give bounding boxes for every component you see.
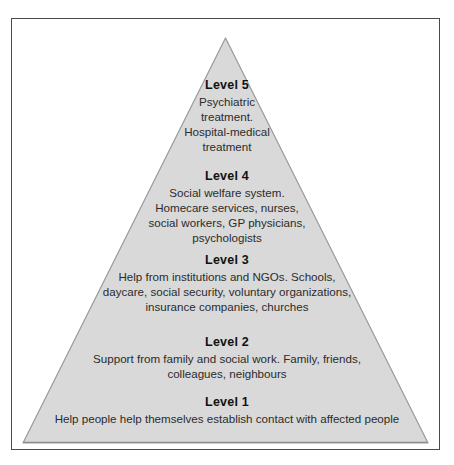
level-5-line-2: treatment. — [127, 109, 327, 124]
level-3-line-3: insurance companies, churches — [62, 299, 392, 314]
level-5-line-4: treatment — [127, 139, 327, 154]
pyramid-figure: Level 5 Psychiatric treatment. Hospital-… — [0, 0, 454, 465]
level-5-body: Psychiatric treatment. Hospital-medical … — [127, 94, 327, 154]
level-2-line-2: colleagues, neighbours — [47, 366, 407, 381]
level-5-line-3: Hospital-medical — [127, 124, 327, 139]
pyramid-levels: Level 5 Psychiatric treatment. Hospital-… — [0, 0, 454, 465]
level-5-title: Level 5 — [127, 77, 327, 93]
level-3-body: Help from institutions and NGOs. Schools… — [62, 269, 392, 314]
pyramid-level-4: Level 4 Social welfare system. Homecare … — [97, 168, 357, 246]
level-5-line-1: Psychiatric — [127, 94, 327, 109]
level-3-title: Level 3 — [62, 252, 392, 268]
level-1-title: Level 1 — [27, 394, 427, 410]
level-4-body: Social welfare system. Homecare services… — [97, 185, 357, 245]
level-4-title: Level 4 — [97, 168, 357, 184]
level-4-line-2: Homecare services, nurses, — [97, 200, 357, 215]
level-1-line-1: Help people help themselves establish co… — [27, 411, 427, 426]
level-4-line-3: social workers, GP physicians, — [97, 215, 357, 230]
level-2-body: Support from family and social work. Fam… — [47, 351, 407, 381]
level-2-title: Level 2 — [47, 334, 407, 350]
pyramid-level-3: Level 3 Help from institutions and NGOs.… — [62, 252, 392, 314]
level-1-body: Help people help themselves establish co… — [27, 411, 427, 426]
level-3-line-1: Help from institutions and NGOs. Schools… — [62, 269, 392, 284]
level-2-line-1: Support from family and social work. Fam… — [47, 351, 407, 366]
pyramid-level-1: Level 1 Help people help themselves esta… — [27, 394, 427, 426]
level-3-line-2: daycare, social security, voluntary orga… — [62, 284, 392, 299]
pyramid-level-2: Level 2 Support from family and social w… — [47, 334, 407, 381]
level-4-line-4: psychologists — [97, 230, 357, 245]
level-4-line-1: Social welfare system. — [97, 185, 357, 200]
pyramid-level-5: Level 5 Psychiatric treatment. Hospital-… — [127, 77, 327, 155]
